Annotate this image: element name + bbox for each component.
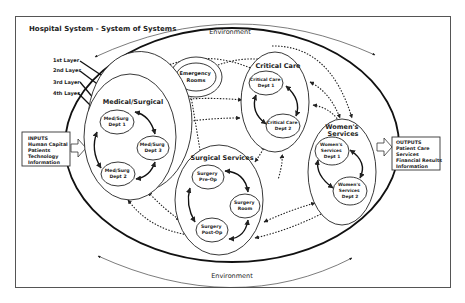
svg-text:Medical/Surgical: Medical/Surgical (103, 98, 163, 106)
outputs-box: OUTPUTS Patient Care Services Financial … (377, 137, 444, 170)
svg-text:2nd Layer: 2nd Layer (53, 67, 81, 74)
svg-text:4th Layer: 4th Layer (53, 90, 80, 97)
svg-text:3rd Layer: 3rd Layer (53, 79, 80, 86)
svg-text:Critical Care: Critical Care (255, 62, 301, 70)
critical-care-subsystem: Critical Care Critical Care Dept 1 Criti… (241, 52, 309, 152)
svg-text:1st Layer: 1st Layer (53, 57, 80, 64)
surgical-services-subsystem: Surgical Services Surgery Pre-Op Surgery… (175, 145, 263, 255)
environment-label-bottom: Environment (211, 272, 253, 280)
svg-text:Women's Services: Women's Services (325, 123, 360, 138)
hospital-system-diagram: Hospital System - System of Systems Envi… (0, 0, 465, 303)
inputs-box: INPUTS Human Capital Patients Technology… (22, 132, 86, 166)
environment-bottom: Environment (98, 256, 352, 288)
svg-text:Surgery Post-Op: Surgery Post-Op (201, 224, 223, 235)
output-arrow-icon (377, 138, 392, 156)
diagram-title: Hospital System - System of Systems (29, 25, 176, 33)
womens-services-subsystem: Women's Services Women's Services Dept 1… (308, 119, 376, 225)
svg-text:Surgery Pre-Op: Surgery Pre-Op (197, 171, 219, 182)
svg-text:Surgical Services: Surgical Services (190, 154, 253, 162)
